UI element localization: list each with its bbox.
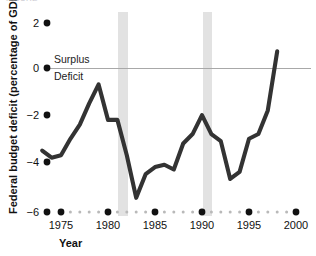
x-tick-dot-minor bbox=[172, 211, 175, 214]
figure-root: FIGURE Federal budget deficit (percentag… bbox=[0, 0, 316, 256]
x-tick-dot-minor bbox=[229, 211, 232, 214]
surplus-annotation: Surplus bbox=[54, 53, 90, 65]
deficit-annotation: Deficit bbox=[54, 70, 83, 82]
budget-deficit-line-chart: Federal budget deficit (percentage of GD… bbox=[0, 0, 316, 256]
x-tick-dot-minor bbox=[257, 211, 260, 214]
y-tick-label-2: 2 bbox=[33, 17, 39, 29]
x-tick-dot-minor bbox=[97, 211, 100, 214]
x-tick-dot-minor bbox=[285, 211, 288, 214]
x-tick-dot-1985 bbox=[152, 209, 159, 216]
x-axis-title: Year bbox=[59, 237, 83, 249]
x-tick-dot-minor bbox=[191, 211, 194, 214]
y-tick-dot-minus4 bbox=[44, 159, 51, 166]
recession-band-1981 bbox=[118, 12, 128, 216]
y-tick-dot-minus6 bbox=[44, 209, 51, 216]
x-tick-label-1985: 1985 bbox=[143, 219, 167, 231]
x-tick-dot-minor bbox=[88, 211, 91, 214]
recession-band-1990 bbox=[203, 12, 212, 216]
x-tick-dot-minor bbox=[125, 211, 128, 214]
x-tick-dot-1995 bbox=[246, 209, 253, 216]
y-tick-dot-2 bbox=[44, 20, 51, 27]
x-tick-dot-minor bbox=[69, 211, 72, 214]
y-tick-dot-0 bbox=[44, 65, 51, 72]
y-tick-dots bbox=[44, 20, 51, 216]
y-tick-label-0: 0 bbox=[33, 62, 39, 74]
x-tick-dot-1990 bbox=[199, 209, 206, 216]
x-tick-dot-minor bbox=[276, 211, 279, 214]
y-tick-label-minus6: −6 bbox=[26, 206, 39, 218]
x-tick-dot-minor bbox=[238, 211, 241, 214]
x-tick-dot-minor bbox=[135, 211, 138, 214]
x-tick-dot-1975 bbox=[58, 209, 65, 216]
x-tick-dot-minor bbox=[78, 211, 81, 214]
x-tick-dot-minor bbox=[219, 211, 222, 214]
x-tick-dots-minor bbox=[69, 211, 288, 214]
x-tick-label-1980: 1980 bbox=[96, 219, 120, 231]
x-tick-label-1995: 1995 bbox=[237, 219, 261, 231]
x-tick-dot-2000 bbox=[293, 209, 300, 216]
x-tick-dot-minor bbox=[144, 211, 147, 214]
x-tick-dot-minor bbox=[163, 211, 166, 214]
y-tick-label-minus4: −4 bbox=[26, 156, 39, 168]
x-tick-label-1990: 1990 bbox=[190, 219, 214, 231]
y-tick-dot-minus2 bbox=[44, 112, 51, 119]
x-tick-dot-minor bbox=[182, 211, 185, 214]
y-tick-label-minus2: −2 bbox=[26, 109, 39, 121]
x-tick-label-1975: 1975 bbox=[49, 219, 73, 231]
x-tick-dots-major bbox=[58, 209, 300, 216]
x-tick-dot-minor bbox=[266, 211, 269, 214]
x-tick-dot-minor bbox=[116, 211, 119, 214]
x-tick-label-2000: 2000 bbox=[284, 219, 308, 231]
x-tick-dot-minor bbox=[210, 211, 213, 214]
y-axis-title: Federal budget deficit (percentage of GD… bbox=[7, 0, 19, 214]
x-tick-dot-1980 bbox=[105, 209, 112, 216]
